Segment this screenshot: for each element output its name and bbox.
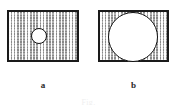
panel-label-a: a [36, 81, 50, 90]
figure-caption: Fig. [0, 97, 177, 105]
plate-b-large-hole-circle [108, 12, 158, 62]
plate-a-rectangle [7, 10, 79, 62]
figure-container: a b Fig. [0, 0, 177, 105]
panel-label-b: b [127, 81, 141, 90]
plate-a-small-hole-circle [31, 28, 47, 44]
plate-b-rectangle [98, 10, 169, 62]
